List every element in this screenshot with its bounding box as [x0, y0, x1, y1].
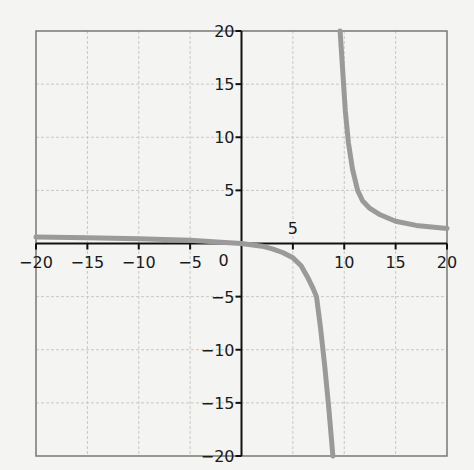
x-tick-label: −5: [178, 253, 202, 272]
x-tick-label: −20: [19, 253, 53, 272]
x-tick-label: −10: [122, 253, 156, 272]
curve-right-branch: [340, 31, 447, 229]
y-tick-label: 5: [224, 181, 234, 200]
function-graph: −20−15−10−505101520−20−15−10−55101520: [0, 0, 474, 470]
x-tick-label: 5: [288, 219, 298, 238]
y-tick-label: 20: [214, 22, 234, 41]
y-tick-label: −5: [211, 288, 235, 307]
y-tick-label: −20: [201, 447, 235, 466]
y-tick-label: −10: [201, 341, 235, 360]
y-tick-label: 10: [214, 128, 234, 147]
x-tick-label: −15: [70, 253, 104, 272]
x-tick-label: 0: [218, 251, 228, 270]
y-tick-label: −15: [201, 394, 235, 413]
x-tick-label: 20: [437, 253, 457, 272]
x-tick-label: 10: [334, 253, 354, 272]
x-tick-label: 15: [385, 253, 405, 272]
y-tick-label: 15: [214, 75, 234, 94]
